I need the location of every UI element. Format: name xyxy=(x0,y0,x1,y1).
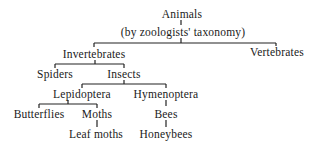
node-butterflies: Butterflies xyxy=(14,108,65,120)
node-moths: Moths xyxy=(82,108,113,120)
node-animals: Animals xyxy=(162,8,203,20)
node-taxonomy-subtitle: (by zoologists' taxonomy) xyxy=(121,26,246,39)
node-bees: Bees xyxy=(154,108,177,120)
node-vertebrates: Vertebrates xyxy=(250,46,304,58)
node-lepidoptera: Lepidoptera xyxy=(53,88,111,101)
node-honeybees: Honeybees xyxy=(140,128,193,141)
node-insects: Insects xyxy=(107,68,141,80)
taxonomy-tree-diagram: Animals (by zoologists' taxonomy) Invert… xyxy=(0,0,318,150)
node-spiders: Spiders xyxy=(37,68,73,81)
node-labels: Animals (by zoologists' taxonomy) Invert… xyxy=(14,8,305,141)
node-leaf-moths: Leaf moths xyxy=(69,128,123,140)
node-hymenoptera: Hymenoptera xyxy=(134,88,199,101)
node-invertebrates: Invertebrates xyxy=(63,48,126,60)
